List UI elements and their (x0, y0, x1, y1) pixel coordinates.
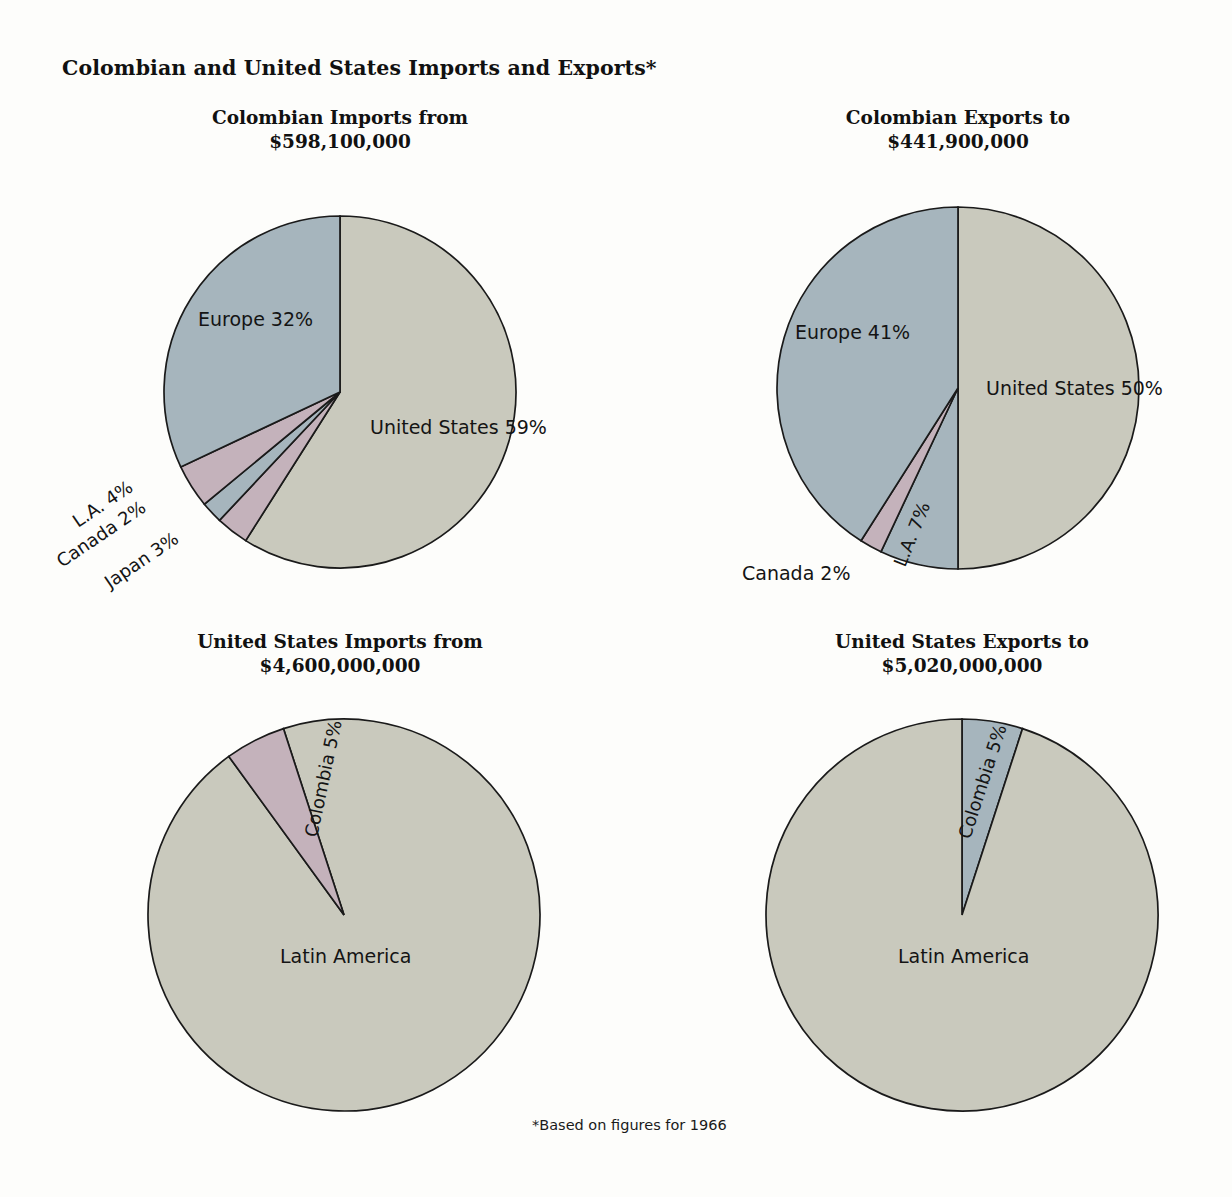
slice-label-latin-america: Latin America (898, 945, 1029, 967)
slice-label-europe: Europe 41% (795, 321, 910, 343)
slice-label-united-states: United States 59% (370, 416, 547, 438)
pie-slices (164, 216, 516, 568)
pie-us-exports: Colombia 5% Latin America (766, 719, 1158, 1111)
slice-label-canada: Canada 2% (742, 562, 850, 584)
pie-colombian-exports: United States 50% Europe 41% L.A. 7% Can… (742, 207, 1163, 584)
pie-slices (766, 719, 1158, 1111)
pie-slices (148, 719, 540, 1111)
pie-us-imports: Colombia 5% Latin America (148, 718, 540, 1111)
slice-label-europe: Europe 32% (198, 308, 313, 330)
figure-footnote: *Based on figures for 1966 (532, 1117, 727, 1133)
pie-colombian-imports: United States 59% Europe 32% L.A. 4% Can… (52, 216, 546, 593)
figure-root: Colombian and United States Imports and … (0, 0, 1232, 1197)
slice-label-united-states: United States 50% (986, 377, 1163, 399)
pie-charts-canvas: United States 59% Europe 32% L.A. 4% Can… (0, 0, 1232, 1197)
slice-label-latin-america: Latin America (280, 945, 411, 967)
pie-slice (766, 719, 1158, 1111)
